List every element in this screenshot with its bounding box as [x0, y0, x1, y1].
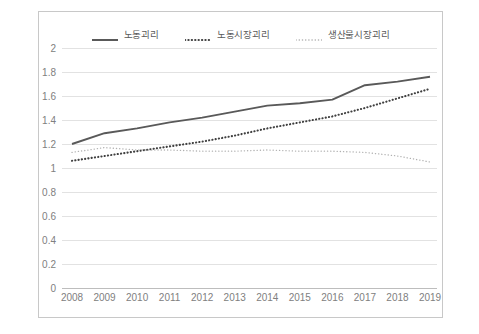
y-tick-label: 0.6: [22, 211, 56, 222]
x-tick-label: 2018: [386, 292, 408, 303]
series-line-0: [72, 77, 430, 144]
y-tick-label: 1.4: [22, 115, 56, 126]
x-tick-label: 2012: [191, 292, 213, 303]
y-tick-label: 0: [22, 283, 56, 294]
x-tick-label: 2014: [256, 292, 278, 303]
x-tick-label: 2015: [289, 292, 311, 303]
y-tick-label: 1.2: [22, 139, 56, 150]
y-tick-label: 1.8: [22, 67, 56, 78]
y-tick-label: 1.6: [22, 91, 56, 102]
y-tick-label: 0.2: [22, 259, 56, 270]
y-tick-label: 0.4: [22, 235, 56, 246]
legend-label-2: 생산물시장괴리: [328, 27, 390, 41]
x-tick-label: 2010: [126, 292, 148, 303]
y-tick-label: 2: [22, 43, 56, 54]
legend-item-1[interactable]: 노동시장괴리: [185, 27, 270, 41]
x-tick-label: 2009: [93, 292, 115, 303]
chart-figure: 00.20.40.60.811.21.41.61.82 200820092010…: [0, 0, 479, 334]
x-tick-label: 2016: [321, 292, 343, 303]
legend-swatch-dotted-bold-icon: [185, 30, 211, 38]
chart-legend: 노동괴리 노동시장괴리 생산물시장괴리: [38, 24, 443, 44]
legend-label-1: 노동시장괴리: [217, 27, 270, 41]
y-tick-label: 0.8: [22, 187, 56, 198]
legend-item-2[interactable]: 생산물시장괴리: [296, 27, 390, 41]
legend-item-0[interactable]: 노동괴리: [92, 27, 159, 41]
legend-swatch-dotted-light-icon: [296, 30, 322, 38]
series-lines: [72, 77, 430, 162]
legend-label-0: 노동괴리: [124, 27, 159, 41]
x-tick-label: 2008: [61, 292, 83, 303]
x-tick-label: 2017: [354, 292, 376, 303]
x-tick-label: 2013: [224, 292, 246, 303]
y-tick-label: 1: [22, 163, 56, 174]
plot-area: [0, 0, 479, 334]
series-line-2: [72, 148, 430, 162]
x-tick-label: 2019: [419, 292, 441, 303]
x-tick-label: 2011: [159, 292, 181, 303]
legend-swatch-solid-icon: [92, 30, 118, 38]
